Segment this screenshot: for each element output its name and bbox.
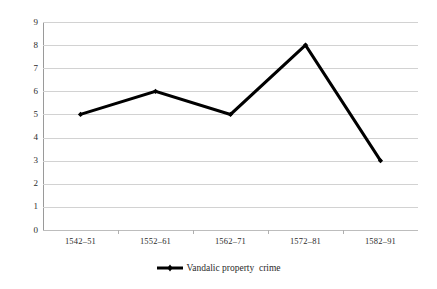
y-axis-tick-label: 4 — [16, 133, 38, 142]
gridline — [43, 230, 418, 231]
y-axis-tick-label: 3 — [16, 156, 38, 165]
y-axis-tick-label: 0 — [16, 226, 38, 235]
line-with-marker-icon — [156, 263, 184, 273]
x-axis-tick-mark — [268, 230, 269, 234]
y-axis-tick-label: 1 — [16, 202, 38, 211]
x-axis-tick-label: 1582–91 — [343, 236, 418, 247]
y-axis-tick-label: 8 — [16, 41, 38, 50]
plot-area — [43, 22, 418, 230]
y-axis-tick-label: 2 — [16, 179, 38, 188]
y-axis-tick-label: 7 — [16, 64, 38, 73]
legend-item-vandalic-property-crime: Vandalic property crime — [156, 263, 280, 274]
y-axis-tick-label: 5 — [16, 110, 38, 119]
x-axis-tick-label: 1542–51 — [43, 236, 118, 247]
x-axis-tick-label: 1552–61 — [118, 236, 193, 247]
series-line-vandalic-property-crime — [43, 22, 418, 230]
x-axis-tick-label: 1562–71 — [193, 236, 268, 247]
series-markers — [78, 43, 383, 164]
y-axis-tick-label: 6 — [16, 87, 38, 96]
x-axis-tick-mark — [193, 230, 194, 234]
y-axis-tick-label: 9 — [16, 18, 38, 27]
chart-container: 0123456789 1542–511552–611562–711572–811… — [0, 0, 437, 289]
x-axis-tick-labels: 1542–511552–611562–711572–811582–91 — [43, 236, 418, 250]
x-axis-tick-mark — [343, 230, 344, 234]
legend-label: Vandalic property crime — [186, 263, 280, 274]
x-axis-tick-label: 1572–81 — [268, 236, 343, 247]
y-axis-tick-labels: 0123456789 — [12, 22, 38, 230]
chart-legend: Vandalic property crime — [0, 258, 437, 278]
x-axis-tick-mark — [118, 230, 119, 234]
series-polyline — [81, 45, 381, 161]
